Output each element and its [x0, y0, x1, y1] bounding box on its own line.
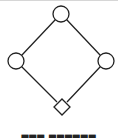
node-left-circle — [8, 53, 24, 69]
edge-left-bottom — [22, 67, 58, 103]
diagram-caption: ▀▀▀ ▀▀▀▀▀▀ — [0, 133, 118, 138]
hasse-diagram — [0, 0, 118, 138]
caption-text: ▀▀▀ ▀▀▀▀▀▀ — [21, 135, 96, 138]
edge-top-left — [22, 20, 56, 56]
node-right-circle — [98, 53, 114, 69]
edge-right-bottom — [67, 67, 101, 103]
edge-top-right — [67, 20, 101, 56]
node-top-circle — [53, 6, 69, 22]
